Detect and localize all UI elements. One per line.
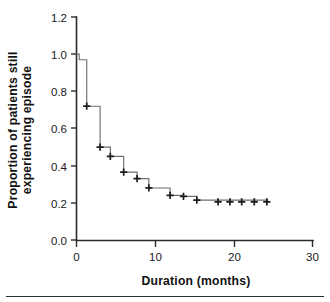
y-tick-label-0-8: 0.8: [51, 86, 67, 98]
y-tick-label-0-6: 0.6: [51, 123, 67, 135]
plot-axes: [77, 17, 314, 241]
censor-tick-0: [83, 103, 90, 110]
x-tick-label-30: 30: [306, 251, 319, 263]
x-axis-tick-labels: 0 10 20 30: [73, 251, 319, 263]
y-axis-title-line1: Proportion of patients still: [6, 51, 20, 208]
censor-tick-8: [193, 196, 200, 203]
censor-tick-12: [251, 198, 258, 205]
x-tick-label-0: 0: [73, 251, 79, 263]
kaplan-meier-figure: 1.2 1.0 0.8 0.6 0.4 0.2 0.0 0 10 20 30 D…: [0, 0, 330, 302]
censor-tick-7: [180, 193, 187, 200]
x-axis-title: Duration (months): [141, 274, 250, 288]
censor-tick-13: [263, 198, 270, 205]
y-axis-tick-labels: 1.2 1.0 0.8 0.6 0.4 0.2 0.0: [51, 12, 68, 247]
censor-tick-3: [120, 169, 127, 176]
y-tick-label-1-0: 1.0: [51, 49, 67, 61]
censor-tick-6: [167, 192, 174, 199]
survival-step-curve: [77, 54, 268, 202]
x-tick-label-10: 10: [149, 251, 162, 263]
y-tick-label-0-2: 0.2: [51, 198, 67, 210]
y-axis-title-line2: experiencing episode: [20, 66, 34, 195]
censor-tick-4: [133, 175, 140, 182]
censoring-marks: [83, 103, 270, 206]
censor-tick-9: [215, 198, 222, 205]
y-tick-label-1-2: 1.2: [51, 12, 67, 24]
y-axis-ticks: [71, 17, 77, 240]
footer-divider: [6, 296, 324, 297]
censor-tick-2: [107, 153, 114, 160]
y-tick-label-0-0: 0.0: [51, 235, 67, 247]
y-tick-label-0-4: 0.4: [51, 161, 68, 173]
survival-curve-chart: 1.2 1.0 0.8 0.6 0.4 0.2 0.0 0 10 20 30 D…: [0, 0, 330, 302]
x-tick-label-20: 20: [228, 251, 241, 263]
x-axis-ticks: [77, 241, 313, 248]
censor-tick-5: [145, 184, 152, 191]
censor-tick-10: [226, 198, 233, 205]
censor-tick-1: [97, 143, 104, 150]
censor-tick-11: [238, 198, 245, 205]
